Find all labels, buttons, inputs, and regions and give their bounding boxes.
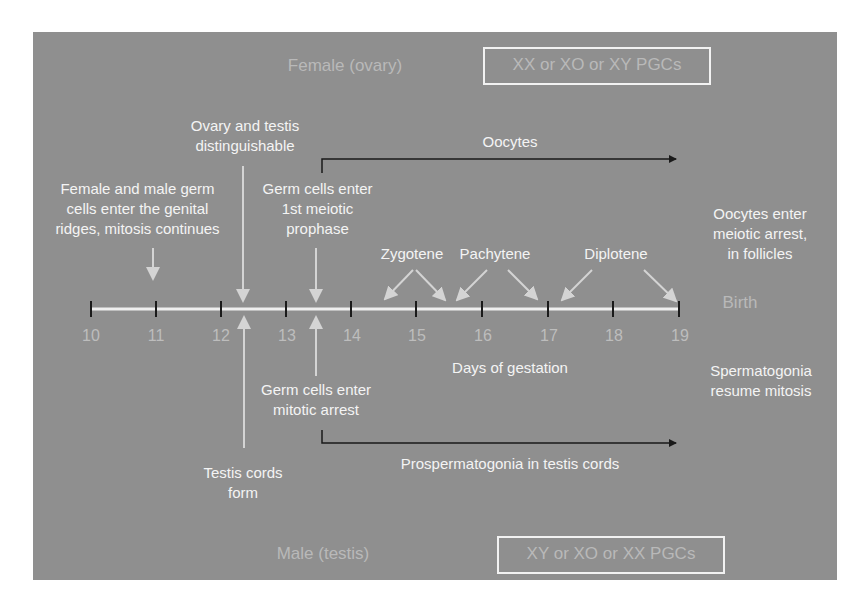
- arrow-diplotene-left: [562, 270, 592, 300]
- arrow-pachytene-right: [508, 270, 537, 299]
- prospermatogonia-bracket-arrow: [322, 430, 676, 443]
- timeline-graphics: [0, 0, 859, 605]
- arrow-zygotene-right: [416, 270, 445, 300]
- oocytes-bracket-arrow: [322, 159, 676, 173]
- arrow-zygotene-left: [385, 270, 413, 299]
- arrow-pachytene-left: [457, 270, 487, 300]
- arrow-diplotene-right: [644, 270, 676, 301]
